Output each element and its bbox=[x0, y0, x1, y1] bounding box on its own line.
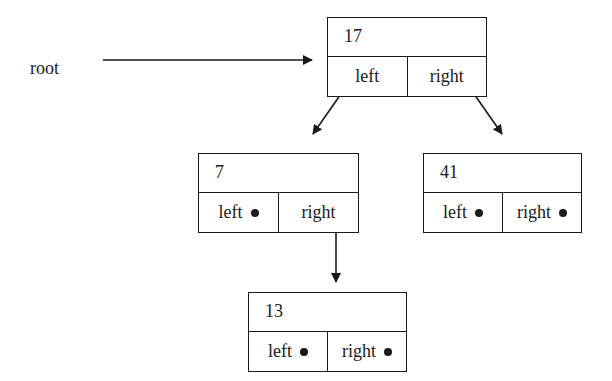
left-label: left bbox=[443, 202, 467, 223]
right-pointer: right bbox=[327, 332, 406, 371]
right-label: right bbox=[342, 341, 376, 362]
arrow-17-left-to-7 bbox=[313, 91, 343, 134]
right-pointer: right bbox=[278, 193, 358, 232]
null-dot-icon bbox=[300, 348, 308, 356]
node-value: 13 bbox=[249, 293, 406, 332]
tree-node-13: 13 left right bbox=[248, 292, 407, 372]
null-dot-icon bbox=[559, 209, 567, 217]
left-label: left bbox=[268, 341, 292, 362]
left-label: left bbox=[355, 66, 379, 87]
left-pointer: left bbox=[199, 193, 278, 232]
left-label: left bbox=[219, 202, 243, 223]
right-pointer: right bbox=[502, 193, 581, 232]
tree-node-7: 7 left right bbox=[198, 153, 359, 233]
null-dot-icon bbox=[251, 209, 259, 217]
left-pointer: left bbox=[328, 57, 407, 96]
arrow-17-right-to-41 bbox=[472, 91, 502, 134]
right-label: right bbox=[517, 202, 551, 223]
right-label: right bbox=[430, 66, 464, 87]
null-dot-icon bbox=[384, 348, 392, 356]
right-label: right bbox=[302, 202, 336, 223]
left-pointer: left bbox=[249, 332, 327, 371]
node-value: 17 bbox=[328, 18, 486, 57]
null-dot-icon bbox=[475, 209, 483, 217]
left-pointer: left bbox=[424, 193, 502, 232]
tree-node-41: 41 left right bbox=[423, 153, 582, 233]
tree-node-17: 17 left right bbox=[327, 17, 487, 97]
node-value: 7 bbox=[199, 154, 358, 193]
node-value: 41 bbox=[424, 154, 581, 193]
right-pointer: right bbox=[407, 57, 487, 96]
